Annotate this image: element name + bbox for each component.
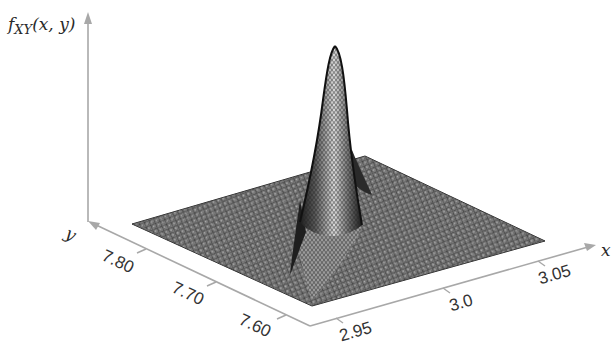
surface-peak <box>300 46 362 236</box>
surface-plot <box>0 0 616 356</box>
z-axis-label: fXY(x, y) <box>8 14 75 37</box>
z-axis <box>84 12 92 222</box>
chart-stage: fXY(x, y) y x 7.80 7.70 7.60 2.95 3.0 3.… <box>0 0 616 356</box>
x-axis-label: x <box>601 240 611 260</box>
